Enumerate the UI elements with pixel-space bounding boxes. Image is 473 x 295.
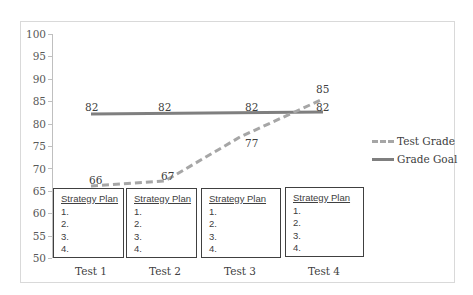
legend-label: Test Grade [397, 135, 455, 147]
legend-item-grade-goal: Grade Goal [372, 153, 457, 165]
grade-goal-data-label: 82 [245, 101, 258, 113]
legend-label: Grade Goal [397, 153, 457, 165]
x-tick-label: Test 2 [128, 265, 202, 277]
grade-goal-data-label: 82 [158, 101, 171, 113]
test-grade-data-label: 67 [161, 170, 174, 182]
legend-item-test-grade: Test Grade [372, 135, 455, 147]
test-grade-data-label: 85 [316, 83, 329, 95]
grade-goal-data-label: 82 [316, 101, 329, 113]
solid-line-swatch-icon [372, 158, 394, 161]
grade-goal-data-label: 82 [85, 101, 98, 113]
x-tick-label: Test 4 [287, 265, 361, 277]
test-grade-data-label: 77 [245, 137, 258, 149]
x-tick-label: Test 3 [203, 265, 277, 277]
dashed-line-swatch-icon [372, 140, 394, 143]
test-grade-data-label: 66 [89, 174, 102, 186]
x-tick-label: Test 1 [54, 265, 128, 277]
plot-area [0, 0, 473, 295]
